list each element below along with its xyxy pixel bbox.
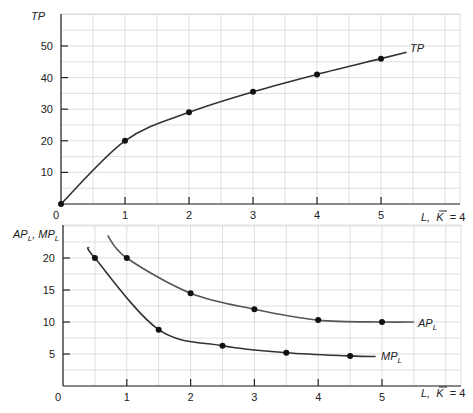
x-tick-label: 3 <box>251 391 257 403</box>
y-tick-label: 20 <box>41 135 53 147</box>
data-point <box>58 201 64 207</box>
origin-label: 0 <box>55 391 61 403</box>
data-point <box>251 306 257 312</box>
x-tick-label: 1 <box>124 391 130 403</box>
bottom-x-label-K: K <box>436 387 444 399</box>
ylabel-ap: AP <box>12 228 28 240</box>
x-tick-label: 5 <box>378 209 384 221</box>
y-tick-label: 5 <box>49 348 55 360</box>
mpl-label-text: MP <box>381 350 398 362</box>
data-point <box>188 290 194 296</box>
production-curves-svg: 1234510203040500 1234551015200 TP TP L, … <box>0 0 473 413</box>
data-point <box>283 350 289 356</box>
tp-curve-label: TP <box>410 42 425 54</box>
data-point <box>379 319 385 325</box>
bottom-axis-ticks: 1234551015200 <box>43 252 385 403</box>
apl-curve <box>108 236 414 323</box>
x-tick-label: 5 <box>379 391 385 403</box>
apl-label-sub: L <box>433 323 437 332</box>
data-point <box>124 255 130 261</box>
x-tick-label: 4 <box>314 209 320 221</box>
chart-figure: 1234510203040500 1234551015200 TP TP L, … <box>0 0 473 413</box>
top-x-label-K: K <box>436 211 444 223</box>
apl-curve-label: APL <box>417 317 437 332</box>
y-tick-label: 40 <box>41 72 53 84</box>
top-x-axis-label: L, K = 4 <box>421 211 465 223</box>
bottom-x-axis-label: L, K = 4 <box>421 387 465 399</box>
data-point <box>220 343 226 349</box>
data-point <box>347 353 353 359</box>
top-chart-grid <box>61 14 460 204</box>
y-tick-label: 20 <box>43 252 55 264</box>
data-point <box>378 56 384 62</box>
mpl-curve <box>88 247 376 356</box>
x-tick-label: 1 <box>122 209 128 221</box>
x-tick-label: 3 <box>250 209 256 221</box>
top-axis-ticks: 1234510203040500 <box>41 40 384 221</box>
tp-curve <box>61 52 407 204</box>
y-tick-label: 15 <box>43 284 55 296</box>
data-point <box>315 317 321 323</box>
x-tick-label: 4 <box>315 391 321 403</box>
bottom-x-label-eq: = 4 <box>450 387 466 399</box>
ylabel-mp-sub: L <box>55 234 59 243</box>
y-tick-label: 50 <box>41 40 53 52</box>
data-point <box>122 138 128 144</box>
data-point <box>314 71 320 77</box>
data-point <box>250 89 256 95</box>
y-tick-label: 10 <box>41 166 53 178</box>
top-x-label-L: L, <box>421 211 430 223</box>
top-y-axis-label: TP <box>31 10 46 22</box>
data-point <box>156 327 162 333</box>
ylabel-mp: , MP <box>32 228 55 240</box>
data-point <box>92 255 98 261</box>
origin-label: 0 <box>53 209 59 221</box>
y-tick-label: 30 <box>41 103 53 115</box>
mpl-curve-label: MPL <box>381 350 402 365</box>
x-tick-label: 2 <box>186 209 192 221</box>
data-point <box>186 109 192 115</box>
apl-label-text: AP <box>417 317 433 329</box>
top-x-label-eq: = 4 <box>450 211 466 223</box>
mpl-label-sub: L <box>398 356 402 365</box>
bottom-y-axis-label: APL, MPL <box>12 228 59 243</box>
x-tick-label: 2 <box>188 391 194 403</box>
y-tick-label: 10 <box>43 316 55 328</box>
bottom-x-label-L: L, <box>421 387 430 399</box>
